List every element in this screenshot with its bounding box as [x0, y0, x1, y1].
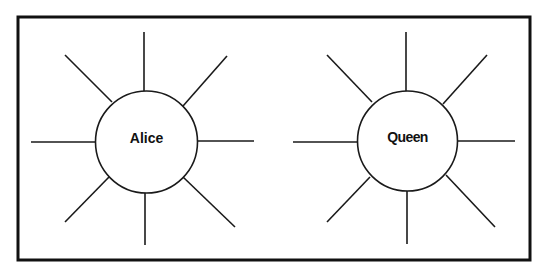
- spoke-line: [327, 55, 372, 102]
- spoke-line: [65, 177, 109, 222]
- hub-label-queen: Queen: [387, 129, 428, 145]
- spoke-line: [446, 175, 495, 227]
- spoke-line: [183, 56, 227, 106]
- spider-diagram: AliceQueen: [0, 0, 546, 273]
- hub-group-queen: Queen: [293, 32, 515, 244]
- hub-label-alice: Alice: [130, 130, 164, 146]
- hub-group-alice: Alice: [31, 32, 254, 245]
- spoke-line: [443, 55, 487, 104]
- spoke-line: [327, 177, 370, 222]
- spoke-line: [183, 177, 235, 227]
- hubs-layer: AliceQueen: [31, 32, 515, 245]
- spoke-line: [65, 55, 112, 102]
